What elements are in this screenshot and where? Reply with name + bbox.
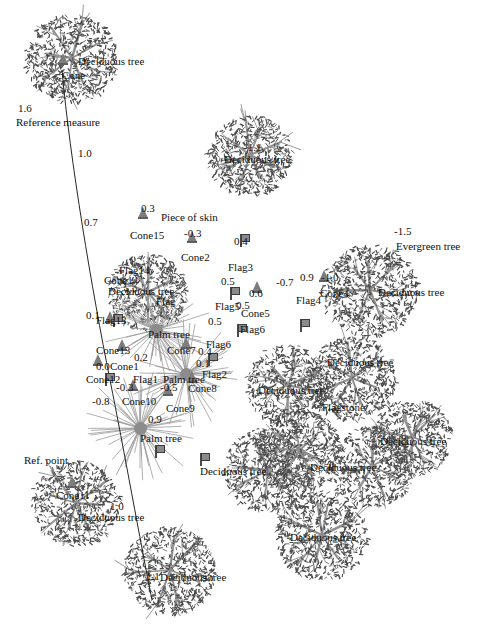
flag13-label: Flag13: [96, 315, 127, 326]
cone2-value: -0.3: [184, 228, 201, 239]
cone4-label: Cone4: [320, 288, 349, 299]
flag3-label: Flag3: [228, 262, 253, 273]
flag-mid-label: Flag: [156, 296, 176, 307]
reference-measure: Reference measure: [16, 117, 100, 128]
cone5-value: 0.6: [249, 288, 263, 299]
flag-marker-flag4[interactable]: [300, 319, 310, 332]
cone11-label: Cone11: [56, 490, 90, 501]
cone13-label: Cone13: [96, 345, 130, 356]
flag4-label: Flag4: [296, 295, 321, 306]
flag6b-value: 0.5: [208, 316, 222, 327]
palm-label-c: Palm tree: [140, 433, 182, 444]
flag-cloth: [156, 445, 165, 453]
tree-label-r5: Deciduous tree: [200, 466, 266, 477]
cone7-label: Cone7: [167, 345, 196, 356]
tree-label-r3: Deciduous tree: [380, 436, 446, 447]
cone-marker-cone11[interactable]: [67, 476, 77, 487]
tree-value-1-1: 1.1: [146, 571, 160, 582]
cone1-label: Cone1: [110, 361, 139, 372]
cone2-label: Cone2: [181, 252, 210, 263]
tree-label-b2: Deciduous tree: [160, 572, 226, 583]
tree-label-top-mid: Deciduous tree: [224, 154, 290, 165]
cone10-value: -0.3: [116, 382, 133, 393]
cone8-label: Cone8: [188, 383, 217, 394]
tree-label-top-left: Deciduous tree: [78, 56, 144, 67]
tree-canopy: [32, 459, 123, 547]
flag-cloth: [231, 287, 240, 295]
flagstone-label: Flagstone: [322, 402, 365, 413]
palm-label-a: Palm tree: [148, 329, 190, 340]
cone4-value: -1.0: [321, 272, 338, 283]
flag2-label: Flag2: [202, 369, 227, 380]
tree-label-lower-left: Deciduous tree: [78, 512, 144, 523]
figure-canvas: Deciduous treeCone1.6Reference measure1.…: [0, 0, 482, 631]
tree-label-r1: Deciduous tree: [327, 357, 393, 368]
cone15-value: 0.3: [141, 203, 155, 214]
ref-value-1-6: 1.6: [18, 103, 32, 114]
cone-label-top-left: Cone: [62, 70, 85, 81]
flag5-value: 0.5: [221, 276, 235, 287]
flag6a-label: Flag6: [240, 324, 265, 335]
note-value-neg-0-7: -0.7: [276, 277, 293, 288]
flag4-value: 0.9: [300, 272, 314, 283]
cone7-value: 0.4: [198, 346, 212, 357]
flag-cloth: [301, 319, 310, 327]
evergreen-value: -1.5: [394, 226, 411, 237]
ref-value-0-7: 0.7: [84, 217, 98, 228]
ref-point-label: Ref. point: [24, 455, 68, 466]
ref-value-1-0: 1.0: [78, 148, 92, 159]
piece-of-skin-label: Piece of skin: [161, 212, 218, 223]
flag-marker-flag1[interactable]: [155, 445, 165, 458]
tree-label-right-upper: Deciduous tree: [378, 287, 444, 298]
flag3-value: 0.4: [234, 236, 248, 247]
evergreen-label: Evergreen tree: [396, 241, 460, 252]
flag1-label: Flag1: [133, 374, 158, 385]
cone10-label: Cone10: [122, 396, 156, 407]
note-value-neg-0-8: -0.8: [92, 396, 109, 407]
cone-marker-cone[interactable]: [58, 53, 68, 64]
tree-value-neg-1-1: -1.1: [244, 142, 261, 153]
flag6a-value: 0.5: [236, 300, 250, 311]
tree-label-r2: Deciduous tree: [258, 385, 324, 396]
cone15-label: Cone15: [130, 230, 164, 241]
flag-cloth: [201, 453, 210, 461]
palm-value-0-9: 0.9: [148, 414, 162, 425]
tree-label-b1: Deciduous tree: [290, 532, 356, 543]
tree-label-r4: Deciduous tree: [310, 462, 376, 473]
cone9-label: Cone9: [166, 403, 195, 414]
cone12-value: 0.0: [96, 361, 110, 372]
cone9-value: -0.5: [160, 382, 177, 393]
